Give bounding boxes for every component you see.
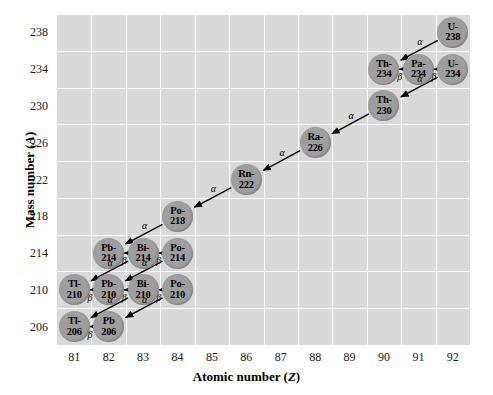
x-axis-title: Atomic number (Z)	[0, 369, 493, 385]
decay-symbol-beta: β	[156, 293, 161, 303]
nuclide-mass: 214	[170, 253, 185, 264]
nuclide-mass: 226	[308, 143, 323, 154]
decay-symbol-alpha: α	[417, 74, 422, 84]
decay-chain-figure: U-238Th-234Pa-234U-234Th-230Ra-226Rn-222…	[0, 0, 493, 395]
decay-symbol-alpha: α	[108, 295, 113, 305]
nuclide-mass: 206	[67, 327, 82, 338]
decay-symbol-beta: β	[122, 293, 127, 303]
gridline-vertical	[470, 14, 471, 345]
decay-symbol-beta: β	[122, 256, 127, 266]
decay-symbol-alpha: α	[142, 295, 147, 305]
nuclide-node-ra-226[interactable]: Ra-226	[300, 127, 331, 158]
decay-symbol-alpha: α	[348, 111, 353, 121]
decay-symbol-alpha: α	[280, 148, 285, 158]
nuclide-mass: 234	[445, 69, 460, 80]
decay-symbol-beta: β	[397, 72, 402, 82]
decay-symbol-alpha: α	[142, 221, 147, 231]
nuclide-mass: 210	[170, 290, 185, 301]
decay-symbol-beta: β	[87, 293, 92, 303]
nuclide-node-po-218[interactable]: Po-218	[162, 201, 193, 232]
nuclide-mass: 222	[239, 180, 254, 191]
y-axis-title: Mass number (A)	[22, 80, 38, 280]
decay-symbol-beta: β	[432, 72, 437, 82]
nuclide-node-th-234[interactable]: Th-234	[368, 54, 399, 85]
plot-area: U-238Th-234Pa-234U-234Th-230Ra-226Rn-222…	[57, 14, 470, 345]
nuclide-node-po-214[interactable]: Po-214	[162, 238, 193, 269]
nuclide-mass: 234	[377, 69, 392, 80]
y-tick-label: 234	[8, 63, 48, 75]
nuclide-node-tl-210[interactable]: Tl-210	[59, 274, 90, 305]
decay-symbol-alpha: α	[142, 258, 147, 268]
y-tick-label: 206	[8, 321, 48, 333]
nuclide-node-u-238[interactable]: U-238	[437, 17, 468, 48]
decay-symbol-alpha: α	[211, 184, 216, 194]
y-tick-label: 238	[8, 26, 48, 38]
decay-symbol-alpha: α	[417, 37, 422, 47]
nuclide-mass: 230	[377, 106, 392, 117]
decay-symbol-beta: β	[156, 256, 161, 266]
nuclide-node-u-234[interactable]: U-234	[437, 54, 468, 85]
y-tick-label: 210	[8, 284, 48, 296]
decay-symbol-beta: β	[87, 330, 92, 340]
nuclide-mass: 218	[170, 216, 185, 227]
nuclide-mass: 206	[101, 327, 116, 338]
nuclide-mass: 210	[67, 290, 82, 301]
decay-symbol-alpha: α	[108, 258, 113, 268]
nuclide-mass: 238	[445, 32, 460, 43]
nuclide-node-tl-206[interactable]: Tl-206	[59, 311, 90, 342]
nuclide-node-rn-222[interactable]: Rn-222	[231, 164, 262, 195]
nuclide-symbol: Rn-	[238, 169, 254, 180]
x-tick-label: 92	[433, 351, 473, 363]
